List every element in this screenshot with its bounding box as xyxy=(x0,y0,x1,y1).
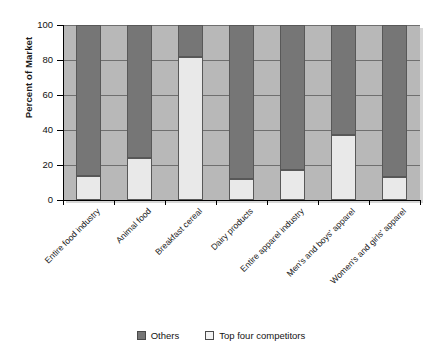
x-tick-mark xyxy=(165,200,166,205)
y-tick-label: 80 xyxy=(0,54,53,65)
bar-segment-top-four[interactable] xyxy=(229,179,255,200)
x-tick-mark xyxy=(114,200,115,205)
bar-segment-top-four[interactable] xyxy=(280,170,306,200)
x-tick-mark xyxy=(318,200,319,205)
legend-label: Others xyxy=(151,330,180,341)
bar-group[interactable] xyxy=(178,25,204,200)
y-tick-label: 20 xyxy=(0,159,53,170)
bar-segment-others[interactable] xyxy=(229,25,255,179)
y-axis-ticks: 100806040200 xyxy=(0,0,63,355)
bar-group[interactable] xyxy=(127,25,153,200)
bar-segment-others[interactable] xyxy=(76,25,102,176)
bar-group[interactable] xyxy=(280,25,306,200)
bar-segment-top-four[interactable] xyxy=(76,176,102,201)
bar-segment-top-four[interactable] xyxy=(331,135,357,200)
legend-label: Top four competitors xyxy=(219,330,305,341)
stacked-bar-chart: Percent of Market 100806040200 Entire fo… xyxy=(0,0,442,355)
bar-segment-others[interactable] xyxy=(178,25,204,57)
y-axis-line xyxy=(63,25,64,201)
x-axis-category-label: Animal food xyxy=(114,206,153,245)
bar-group[interactable] xyxy=(229,25,255,200)
legend-item[interactable]: Others xyxy=(137,330,180,341)
bar-segment-top-four[interactable] xyxy=(382,177,408,200)
x-tick-mark xyxy=(216,200,217,205)
legend-swatch-icon xyxy=(205,331,214,340)
plot-area xyxy=(63,25,420,200)
legend-swatch-icon xyxy=(137,331,146,340)
x-tick-mark xyxy=(267,200,268,205)
bar-group[interactable] xyxy=(382,25,408,200)
bar-group[interactable] xyxy=(76,25,102,200)
bar-segment-others[interactable] xyxy=(382,25,408,177)
bar-segment-top-four[interactable] xyxy=(178,57,204,201)
x-axis-line xyxy=(63,200,421,201)
x-axis-category-label: Breakfast cereal xyxy=(153,206,204,257)
x-tick-mark xyxy=(420,200,421,205)
bar-segment-others[interactable] xyxy=(331,25,357,135)
x-tick-mark xyxy=(63,200,64,205)
bar-segment-others[interactable] xyxy=(127,25,153,158)
x-tick-mark xyxy=(369,200,370,205)
x-axis-category-label: Dairy products xyxy=(208,206,254,252)
bar-segment-others[interactable] xyxy=(280,25,306,170)
legend-item[interactable]: Top four competitors xyxy=(205,330,305,341)
y-tick-label: 60 xyxy=(0,89,53,100)
y-tick-label: 40 xyxy=(0,124,53,135)
bar-segment-top-four[interactable] xyxy=(127,158,153,200)
y-tick-label: 0 xyxy=(0,194,53,205)
bar-group[interactable] xyxy=(331,25,357,200)
chart-legend: OthersTop four competitors xyxy=(0,330,442,341)
y-tick-label: 100 xyxy=(0,19,53,30)
